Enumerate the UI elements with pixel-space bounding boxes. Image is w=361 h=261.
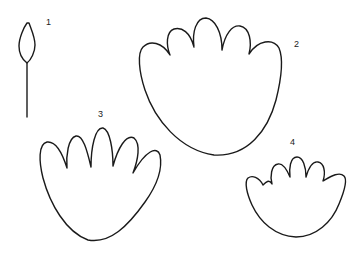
shape-3-fan [40,128,161,241]
figure-canvas [0,0,361,261]
label-4: 4 [290,137,295,147]
label-2: 2 [294,39,299,49]
shape-4-wavy [246,157,345,237]
label-3: 3 [98,109,103,119]
shape-2-lobed [139,18,281,155]
label-1: 1 [46,17,51,27]
shape-1-bud [19,23,35,117]
